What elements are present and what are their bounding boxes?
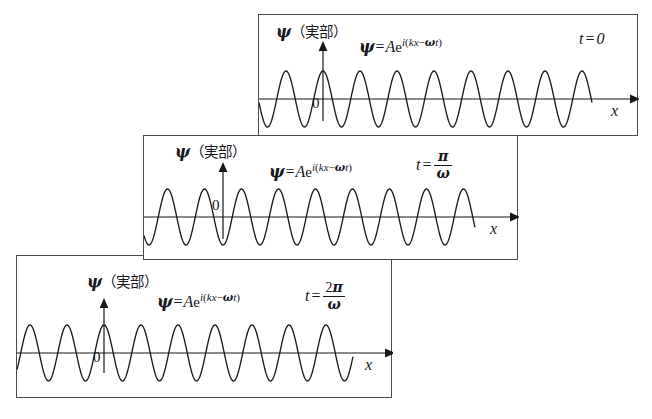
formula-psi-1: ψ bbox=[359, 37, 375, 56]
psi-symbol-2: ψ bbox=[175, 142, 190, 161]
psi-real-part-text-3: （実部） bbox=[102, 274, 158, 290]
wave-formula-3: ψ=Aei(kx−ωt) bbox=[157, 292, 240, 311]
formula-exp-omega-1: ω bbox=[425, 36, 435, 49]
time-label-1: t=0 bbox=[579, 31, 604, 47]
time-equals-2: = bbox=[422, 157, 431, 173]
origin-label-1: 0 bbox=[312, 96, 320, 111]
x-axis-label-2: x bbox=[490, 221, 497, 237]
x-axis-arrowhead-1 bbox=[630, 95, 639, 104]
time-fraction-2: π ω bbox=[434, 149, 451, 181]
formula-equals-1: = bbox=[376, 38, 385, 55]
formula-psi-2: ψ bbox=[269, 162, 285, 181]
panel-t-pi-over-omega: ψ（実部） 0 x ψ=Aei(kx−ωt) t= π ω bbox=[143, 135, 518, 260]
formula-exp-close-2: ) bbox=[348, 161, 352, 173]
psi-symbol-1: ψ bbox=[276, 22, 291, 41]
time-variable-2: t bbox=[416, 157, 420, 173]
y-axis-arrowhead-1 bbox=[319, 41, 328, 51]
formula-exp-kx-1: kx bbox=[409, 36, 419, 48]
wave-formula-1: ψ=Aei(kx−ωt) bbox=[359, 37, 442, 56]
formula-exp-kx-2: kx bbox=[319, 161, 329, 173]
wave-formula-2: ψ=Aei(kx−ωt) bbox=[269, 162, 352, 181]
formula-amplitude-3: A bbox=[184, 293, 194, 310]
time-fraction-numerator-3: 2π bbox=[323, 280, 344, 296]
time-variable-3: t bbox=[305, 288, 309, 304]
formula-exponent-3: i(kx−ωt) bbox=[200, 291, 240, 303]
time-fraction-numerator-2: π bbox=[436, 149, 450, 165]
psi-real-part-text-1: （実部） bbox=[291, 24, 347, 40]
formula-amplitude-1: A bbox=[386, 38, 396, 55]
x-axis-arrowhead-3 bbox=[385, 349, 393, 358]
formula-exp-close-3: ) bbox=[236, 291, 240, 303]
x-axis-label-1: x bbox=[611, 103, 618, 119]
formula-psi-3: ψ bbox=[157, 292, 173, 311]
time-fraction-3: 2π ω bbox=[323, 280, 344, 312]
time-label-2: t= π ω bbox=[416, 149, 452, 181]
origin-label-3: 0 bbox=[93, 350, 101, 365]
time-equals-3: = bbox=[311, 288, 320, 304]
origin-label-2: 0 bbox=[212, 198, 220, 213]
formula-exponent-2: i(kx−ωt) bbox=[312, 161, 352, 173]
panel-t-2pi-over-omega: ψ（実部） 0 x ψ=Aei(kx−ωt) t= 2π ω bbox=[16, 255, 392, 398]
time-fraction-denominator-2: ω bbox=[434, 166, 451, 181]
formula-exp-omega-3: ω bbox=[223, 291, 233, 304]
y-axis-arrowhead-3 bbox=[100, 298, 109, 308]
formula-equals-3: = bbox=[174, 293, 183, 310]
time-fraction-pi-3: π bbox=[332, 279, 342, 295]
y-axis-label-2: ψ（実部） bbox=[175, 144, 246, 160]
time-equals-1: = bbox=[585, 31, 594, 47]
time-variable-1: t bbox=[579, 31, 583, 47]
psi-symbol-3: ψ bbox=[87, 272, 102, 291]
wave-figure: ψ（実部） 0 x ψ=Aei(kx−ωt) t= 2π ω ψ（実部） bbox=[0, 0, 652, 419]
formula-amplitude-2: A bbox=[296, 163, 306, 180]
time-fraction-pi-2: π bbox=[438, 148, 448, 164]
formula-exp-kx-3: kx bbox=[207, 291, 217, 303]
x-axis-label-3: x bbox=[365, 357, 372, 373]
time-label-3: t= 2π ω bbox=[305, 280, 345, 312]
y-axis-arrowhead-2 bbox=[219, 162, 228, 172]
panel-t0: ψ（実部） 0 x ψ=Aei(kx−ωt) t=0 bbox=[258, 14, 638, 136]
psi-real-part-text-2: （実部） bbox=[190, 144, 246, 160]
time-value-1: 0 bbox=[596, 31, 604, 47]
formula-exp-omega-2: ω bbox=[335, 161, 345, 174]
panel-3-plot bbox=[17, 256, 393, 399]
y-axis-label-1: ψ（実部） bbox=[276, 24, 347, 40]
x-axis-arrowhead-2 bbox=[510, 213, 519, 222]
formula-exp-close-1: ) bbox=[438, 36, 442, 48]
formula-equals-2: = bbox=[286, 163, 295, 180]
formula-exponent-1: i(kx−ωt) bbox=[402, 36, 442, 48]
y-axis-label-3: ψ（実部） bbox=[87, 274, 158, 290]
time-fraction-denominator-3: ω bbox=[325, 297, 342, 312]
